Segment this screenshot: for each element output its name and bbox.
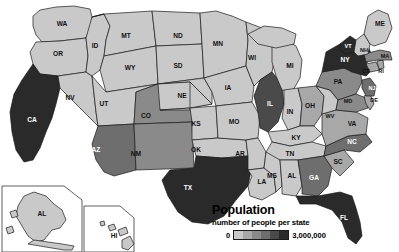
- label-ID: ID: [92, 42, 99, 49]
- legend-swatch-4: [270, 231, 279, 239]
- state-AK-tail[interactable]: [28, 240, 74, 250]
- label-VA: VA: [348, 120, 357, 127]
- state-OR[interactable]: [30, 38, 88, 76]
- label-NE: NE: [177, 92, 187, 99]
- legend-swatch-3: [261, 231, 270, 239]
- label-KS: KS: [191, 120, 201, 127]
- legend-max-label: 3,000,000: [292, 231, 326, 240]
- label-NH: NH: [360, 47, 368, 53]
- label-NM: NM: [131, 150, 142, 157]
- label-SD: SD: [173, 62, 182, 69]
- label-MI: MI: [286, 62, 293, 69]
- label-MT: MT: [121, 32, 131, 39]
- label-ME: ME: [375, 20, 385, 27]
- label-RI: RI: [378, 68, 384, 74]
- label-WY: WY: [125, 64, 136, 71]
- label-CA: CA: [27, 116, 37, 123]
- label-IN: IN: [287, 108, 294, 115]
- legend-title: Population: [212, 203, 342, 217]
- label-UT: UT: [100, 100, 109, 107]
- label-NY: NY: [340, 56, 350, 63]
- label-KY: KY: [291, 134, 301, 141]
- legend-swatch-0: [234, 231, 243, 239]
- legend-swatch-1: [243, 231, 252, 239]
- label-PA: PA: [334, 78, 343, 85]
- label-MN: MN: [213, 40, 223, 47]
- label-AR: AR: [235, 150, 245, 157]
- label-NJ: NJ: [368, 85, 375, 91]
- legend-subtitle: number of people per state: [212, 217, 342, 228]
- label-TN: TN: [286, 150, 295, 157]
- state-HI-isl1[interactable]: [100, 221, 105, 226]
- label-NC: NC: [347, 138, 357, 145]
- label-SC: SC: [333, 158, 342, 165]
- label-MD: MD: [344, 98, 353, 104]
- label-CO: CO: [141, 112, 151, 119]
- label-AL: AL: [288, 172, 297, 179]
- label-WI: WI: [248, 54, 256, 61]
- label-ND: ND: [173, 32, 183, 39]
- state-ME[interactable]: [364, 10, 392, 46]
- label-IA: IA: [225, 84, 232, 91]
- state-ND[interactable]: [152, 11, 202, 46]
- state-NV[interactable]: [58, 72, 98, 126]
- label-WV: WV: [326, 113, 335, 119]
- state-AK[interactable]: [16, 192, 66, 242]
- label-AZ: AZ: [92, 146, 101, 153]
- label-AK: AL: [38, 210, 47, 217]
- population-map: WA OR CA NV ID MT WY UT AZ CO NM ND SD N…: [0, 0, 399, 252]
- label-WA: WA: [57, 20, 68, 27]
- label-GA: GA: [309, 174, 319, 181]
- label-MO: MO: [229, 118, 240, 125]
- label-OR: OR: [53, 50, 63, 57]
- label-LA: LA: [258, 178, 267, 185]
- label-MS: MS: [267, 172, 277, 179]
- label-CT: CT: [362, 68, 370, 74]
- label-TX: TX: [184, 184, 193, 191]
- state-NM[interactable]: [134, 122, 194, 170]
- label-HI: HI: [111, 232, 118, 239]
- legend-swatch-5: [279, 231, 288, 239]
- state-HI-isl2[interactable]: [108, 224, 116, 231]
- legend-scale: 0 3,000,000: [212, 230, 342, 240]
- label-NV: NV: [65, 94, 75, 101]
- legend-swatch-2: [252, 231, 261, 239]
- label-DE: DE: [370, 97, 378, 103]
- label-VT: VT: [344, 43, 352, 49]
- legend-min-label: 0: [226, 231, 230, 240]
- label-OK: OK: [191, 146, 201, 153]
- state-CA[interactable]: [10, 64, 60, 162]
- state-AR[interactable]: [246, 138, 266, 170]
- label-IL: IL: [267, 100, 273, 107]
- state-AK-isl2[interactable]: [6, 226, 14, 234]
- state-HI-isl3[interactable]: [118, 227, 128, 236]
- population-legend: Population number of people per state 0 …: [212, 203, 342, 240]
- label-MA: MA: [381, 53, 390, 59]
- state-HI-isl4[interactable]: [122, 236, 134, 250]
- label-OH: OH: [305, 102, 315, 109]
- legend-color-ramp: [233, 230, 289, 240]
